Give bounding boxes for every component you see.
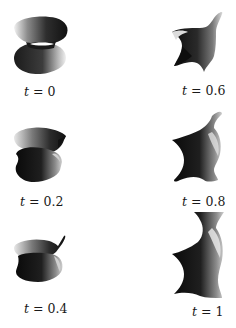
panel-label-t1: t = 1 [192,304,223,319]
label-equals: = [187,194,205,209]
label-equals: = [25,194,43,209]
surface-t06-image [118,0,236,80]
panel-t04: t = 0.4 [0,218,118,328]
panel-t02: t = 0.2 [0,110,118,214]
panel-label-t02: t = 0.2 [20,194,63,209]
surface-t02-image [0,110,118,190]
panel-t08: t = 0.8 [118,104,236,210]
panel-label-t08: t = 0.8 [182,194,225,209]
panel-t0: t = 0 [0,0,118,104]
label-value: 1 [215,304,223,319]
label-equals: = [187,83,205,98]
label-value: 0.6 [205,83,225,98]
label-equals: = [197,304,215,319]
label-value: 0.4 [47,301,67,316]
label-value: 0.2 [43,194,63,209]
surface-t04-image [0,218,118,298]
panel-label-t06: t = 0.6 [182,83,225,98]
label-value: 0 [47,84,55,99]
label-value: 0.8 [205,194,225,209]
panel-label-t0: t = 0 [24,84,55,99]
panel-t1: t = 1 [118,208,236,328]
surface-t0-image [0,0,118,80]
label-equals: = [29,301,47,316]
surface-t1-image [118,208,236,302]
panel-t06: t = 0.6 [118,0,236,104]
label-equals: = [29,84,47,99]
surface-t08-image [118,104,236,190]
panel-label-t04: t = 0.4 [24,301,67,316]
